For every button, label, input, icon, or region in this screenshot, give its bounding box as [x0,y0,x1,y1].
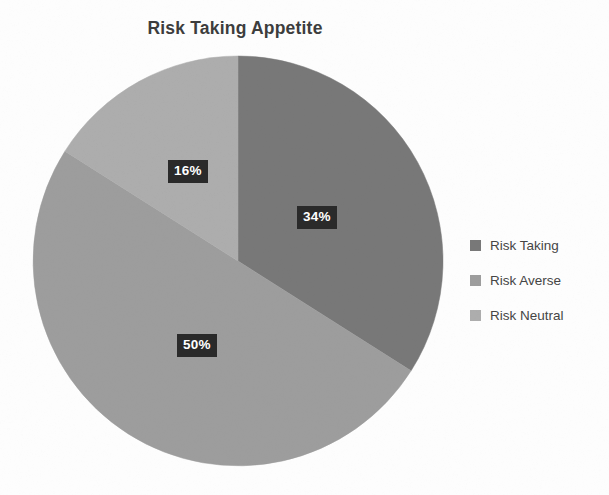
chart-legend: Risk Taking Risk Averse Risk Neutral [470,228,609,333]
pie-svg [0,0,470,495]
legend-item-label: Risk Neutral [490,308,564,323]
legend-swatch-icon [470,240,481,251]
pie-plot-area [0,0,470,495]
pie-slices [33,56,443,466]
legend-item-label: Risk Averse [490,273,561,288]
legend-swatch-icon [470,310,481,321]
legend-swatch-icon [470,275,481,286]
legend-item-risk-taking[interactable]: Risk Taking [470,228,609,263]
slice-data-label: 50% [177,334,217,357]
slice-data-label: 16% [168,160,208,183]
pie-chart-figure: Risk Taking Appetite 34% 16% 50% Risk Ta… [0,0,609,495]
slice-data-label: 34% [297,206,337,229]
legend-item-label: Risk Taking [490,238,559,253]
legend-item-risk-neutral[interactable]: Risk Neutral [470,298,609,333]
legend-item-risk-averse[interactable]: Risk Averse [470,263,609,298]
chart-title: Risk Taking Appetite [0,18,470,39]
